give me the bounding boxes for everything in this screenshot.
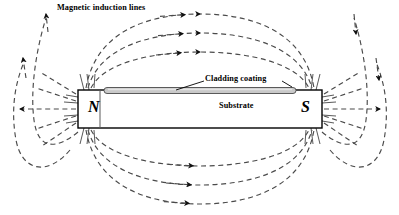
substrate-bar <box>78 90 322 128</box>
substrate-label: Substrate <box>219 101 254 110</box>
stub-bottom-s-3 <box>305 130 306 144</box>
cladding-coating-leader-right <box>282 81 292 87</box>
magnetic-induction-lines-label: Magnetic induction lines <box>57 3 145 12</box>
field-line-bottom-2 <box>88 130 312 185</box>
field-line-outer-left-2-arrow <box>23 58 26 78</box>
field-line-bottom-arrow-1 <box>168 164 193 166</box>
magnetic-field-diagram: Magnetic induction lines Cladding coatin… <box>0 0 399 215</box>
stub-bottom-n-3 <box>94 130 95 144</box>
field-line-outer-left-1-arrow <box>46 14 48 32</box>
field-line-bottom-arrow-3 <box>164 202 189 204</box>
field-line-bottom-1 <box>91 130 309 166</box>
field-lines-right-fan <box>324 72 380 146</box>
field-line-bottom-3 <box>86 130 314 204</box>
field-line-left-fan-2 <box>36 88 76 101</box>
field-line-outer-left-2 <box>14 62 70 167</box>
cladding-coating-highlight <box>108 89 292 91</box>
stub-top-n-1 <box>80 74 84 90</box>
diagram-canvas <box>0 0 399 215</box>
stub-right-4 <box>322 121 334 123</box>
stub-right-2 <box>322 102 336 103</box>
field-lines-bottom <box>86 130 314 204</box>
stub-left-4 <box>66 121 78 123</box>
field-lines-left-fan <box>20 72 76 146</box>
cladding-coating-strip <box>104 88 296 94</box>
field-line-left-fan-1 <box>40 72 76 94</box>
field-line-top-2 <box>88 33 312 88</box>
field-line-right-fan-1 <box>324 72 360 94</box>
field-line-left-fan-4 <box>42 123 76 146</box>
field-line-outer-left-1 <box>33 18 78 144</box>
stub-top-n-3 <box>94 74 95 88</box>
field-line-outer-right-2 <box>330 62 386 167</box>
field-line-top-1 <box>86 14 314 88</box>
field-lines-top <box>86 14 314 88</box>
stub-right-1 <box>322 95 334 97</box>
north-pole-label: N <box>88 98 100 116</box>
stub-bottom-n-1 <box>80 128 84 144</box>
stub-top-s-1 <box>316 74 320 90</box>
field-line-outer-right-1 <box>322 18 367 144</box>
stub-bottom-s-1 <box>316 128 320 144</box>
south-pole-label: S <box>301 98 310 116</box>
cladding-coating-label: Cladding coating <box>205 74 266 83</box>
stub-left-1 <box>66 95 78 97</box>
stub-top-s-3 <box>305 74 306 88</box>
field-line-right-fan-4 <box>324 123 358 146</box>
stub-left-2 <box>64 102 78 103</box>
field-line-right-fan-2 <box>324 88 364 101</box>
